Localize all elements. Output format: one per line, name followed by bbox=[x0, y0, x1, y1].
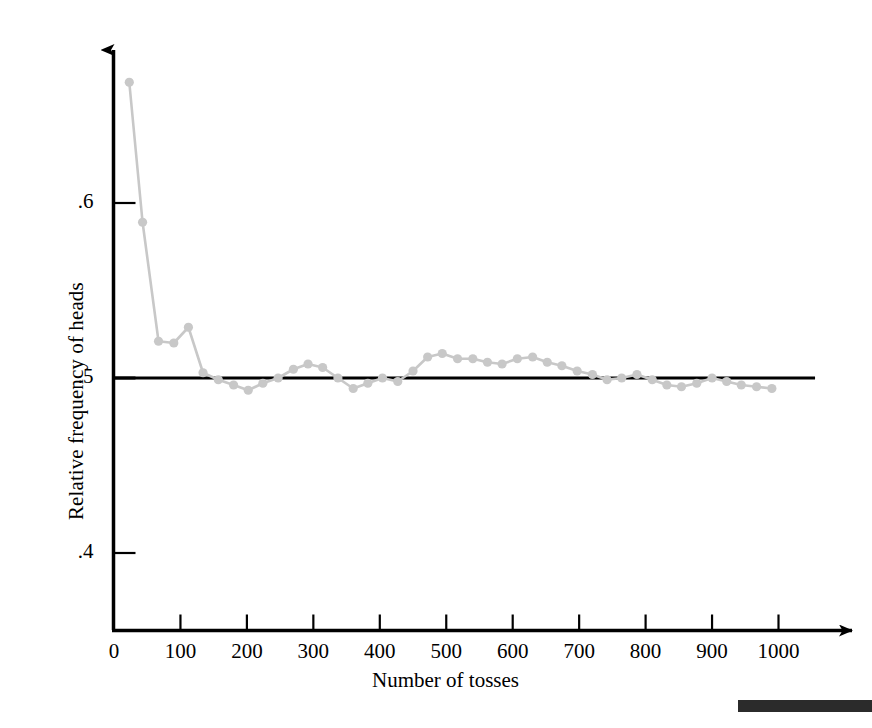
data-point bbox=[632, 370, 641, 379]
data-point bbox=[528, 352, 537, 361]
page-edge-bar bbox=[738, 700, 872, 712]
data-point bbox=[363, 379, 372, 388]
relative-frequency-line bbox=[129, 82, 772, 390]
x-tick-label-1000: 1000 bbox=[739, 639, 819, 664]
x-tick-marks bbox=[180, 615, 778, 631]
data-point bbox=[588, 370, 597, 379]
x-axis-title: Number of tosses bbox=[372, 668, 519, 693]
y-tick-label-6: .6 bbox=[70, 189, 102, 214]
data-point bbox=[349, 384, 358, 393]
data-point bbox=[318, 363, 327, 372]
y-tick-label-4: .4 bbox=[70, 539, 102, 564]
data-point bbox=[752, 382, 761, 391]
data-point bbox=[497, 359, 506, 368]
data-point bbox=[677, 382, 686, 391]
relative-frequency-markers bbox=[125, 78, 777, 395]
data-point bbox=[408, 366, 417, 375]
data-point bbox=[229, 380, 238, 389]
data-point bbox=[617, 373, 626, 382]
data-point bbox=[662, 380, 671, 389]
data-point bbox=[303, 359, 312, 368]
relative-frequency-chart: .6.5.4 01002003004005006007008009001000 … bbox=[0, 0, 872, 728]
data-point bbox=[169, 338, 178, 347]
data-point bbox=[184, 323, 193, 332]
data-point bbox=[258, 379, 267, 388]
data-point bbox=[125, 78, 134, 87]
data-point bbox=[393, 377, 402, 386]
data-point bbox=[543, 358, 552, 367]
y-axis-title: Relative frequency of heads bbox=[64, 282, 89, 520]
data-point bbox=[244, 386, 253, 395]
data-point bbox=[378, 373, 387, 382]
data-point bbox=[483, 358, 492, 367]
data-point bbox=[438, 349, 447, 358]
data-point bbox=[333, 373, 342, 382]
data-point bbox=[138, 218, 147, 227]
y-axis bbox=[114, 50, 136, 630]
data-point bbox=[737, 380, 746, 389]
data-point bbox=[722, 377, 731, 386]
data-point bbox=[513, 354, 522, 363]
data-point bbox=[289, 365, 298, 374]
data-point bbox=[692, 379, 701, 388]
data-point bbox=[274, 373, 283, 382]
data-point bbox=[707, 373, 716, 382]
chart-plot-area bbox=[0, 0, 872, 728]
data-point bbox=[602, 375, 611, 384]
data-point bbox=[423, 352, 432, 361]
data-point bbox=[557, 361, 566, 370]
data-point bbox=[468, 354, 477, 363]
data-point bbox=[648, 375, 657, 384]
data-point bbox=[154, 337, 163, 346]
data-point bbox=[214, 375, 223, 384]
data-point bbox=[767, 384, 776, 393]
x-axis bbox=[112, 615, 852, 631]
data-point bbox=[453, 354, 462, 363]
data-point bbox=[198, 368, 207, 377]
data-point bbox=[573, 366, 582, 375]
